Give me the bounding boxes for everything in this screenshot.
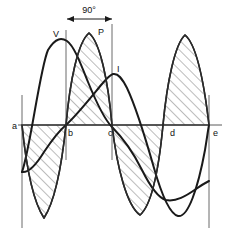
current-label: I — [117, 64, 120, 74]
voltage-label: V — [53, 29, 59, 39]
waveform-figure: 90° V P I a b c d e — [0, 0, 234, 239]
angle-label: 90° — [82, 5, 96, 15]
axis-label-b: b — [68, 128, 73, 138]
axis-label-d: d — [170, 128, 175, 138]
axis-label-a: a — [12, 121, 17, 131]
axis-label-c: c — [108, 128, 113, 138]
axis-label-e: e — [213, 128, 218, 138]
waveform-svg: 90° V P I a b c d e — [0, 0, 234, 239]
power-label: P — [98, 27, 104, 37]
